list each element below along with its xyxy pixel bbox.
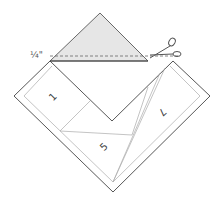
inner-seam-outline (24, 66, 200, 182)
scissors-icon (150, 37, 181, 58)
paper-piecing-diagram (0, 0, 220, 204)
seam-line-7-a (113, 68, 165, 182)
seam-line-5-top (60, 131, 132, 135)
outer-block-outline (14, 61, 210, 192)
seam-allowance-label: ¼" (30, 51, 43, 60)
seam-line-1-5 (60, 101, 90, 131)
trim-excess-triangle (50, 13, 148, 61)
seam-line-7-c (113, 73, 160, 182)
